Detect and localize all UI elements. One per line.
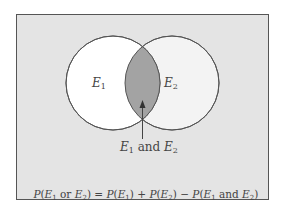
- intersection-label: E1 and E2: [120, 141, 178, 155]
- set-e2-label: E2: [164, 77, 178, 91]
- addition-rule-formula: P(E1 or E2) = P(E1) + P(E2) − P(E1 and E…: [0, 176, 285, 202]
- set-e1-label: E1: [92, 77, 106, 91]
